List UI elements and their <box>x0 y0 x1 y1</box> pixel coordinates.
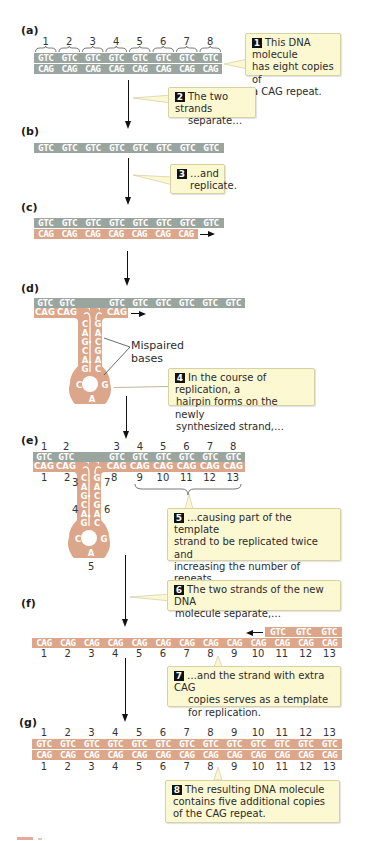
gtc-repeat: GTC <box>128 143 152 153</box>
cag-repeat: CAG <box>270 638 294 648</box>
repeat-braces <box>34 46 222 53</box>
cag-repeat: CAG <box>32 638 56 648</box>
gtc-repeat: GTC <box>270 739 294 749</box>
figure-number-fragment <box>38 838 42 840</box>
cag-repeat: CAG <box>152 462 175 471</box>
callout-step-5: 5…causing part of the template strand to… <box>167 508 341 561</box>
repeat-number: 3 <box>80 761 104 772</box>
repeat-number: 11 <box>270 648 294 659</box>
gtc-repeat: GTC <box>294 739 318 749</box>
panel-e-top-numbers: 3 4 5 6 7 8 <box>105 441 245 452</box>
arrow-f-to-g <box>125 658 126 715</box>
cag-repeat: CAG <box>127 750 151 760</box>
cag-repeat: CAG <box>199 638 223 648</box>
panel-c-label: (c) <box>21 201 38 214</box>
gtc-repeat: GTC <box>127 739 151 749</box>
gtc-repeat: GTC <box>128 298 151 308</box>
cag-repeat: CAG <box>128 462 151 471</box>
cag-repeat: CAG <box>105 462 128 471</box>
cag-repeat: CAG <box>221 462 244 471</box>
gtc-repeat: GTC <box>199 739 223 749</box>
gtc-repeat: GTC <box>199 218 223 228</box>
repeat-number: 1 <box>32 648 56 659</box>
loop-base: A <box>87 395 97 404</box>
arrow-d-to-e <box>126 396 127 432</box>
loop-base: G <box>100 381 110 390</box>
panel-e-label: (e) <box>21 434 39 447</box>
hairpin-repeat-number: 3 <box>72 477 78 488</box>
gtc-repeat: GTC <box>176 143 200 153</box>
repeat-number: 13 <box>221 472 244 483</box>
arrow-head-icon <box>125 197 131 205</box>
repeat-number: 13 <box>318 648 342 659</box>
callout-text: separate… <box>175 115 242 126</box>
repeat-number: 2 <box>64 472 70 483</box>
repeat-number: 5 <box>127 648 151 659</box>
cag-repeat: CAG <box>128 229 151 239</box>
repeat-number: 9 <box>222 761 246 772</box>
arrow-right-icon <box>139 311 146 317</box>
gtc-repeat: GTC <box>199 53 223 63</box>
gtc-repeat: GTC <box>34 143 58 153</box>
repeat-number: 10 <box>151 472 174 483</box>
arrow-head-icon <box>123 431 129 439</box>
repeat-number: 2 <box>56 648 80 659</box>
repeat-number: 6 <box>151 761 175 772</box>
repeat-number: 12 <box>294 761 318 772</box>
gtc-repeat: GTC <box>105 218 129 228</box>
panel-c-template-strand: GTC GTC GTC GTC GTC GTC GTC GTC <box>34 218 224 228</box>
repeat-number: 9 <box>222 727 246 738</box>
repeat-number: 9 <box>128 472 151 483</box>
repeat-number: 6 <box>151 727 175 738</box>
repeat-number: 8 <box>221 441 244 452</box>
figure-number-fragment <box>17 837 33 840</box>
callout-text: …and the strand with extra CAG <box>174 670 324 693</box>
callout-text: copies serves as a template <box>174 694 328 705</box>
repeat-number: 12 <box>294 727 318 738</box>
panel-d-label: (d) <box>21 282 39 295</box>
callout-text: The resulting DNA molecule <box>185 784 324 795</box>
gtc-repeat: GTC <box>318 739 342 749</box>
loop-base: C <box>73 535 83 544</box>
cag-repeat: CAG <box>152 64 176 74</box>
cag-repeat: CAG <box>105 64 129 74</box>
hairpin-repeat-number: 6 <box>104 504 110 515</box>
callout-text: of the CAG repeat. <box>172 808 266 819</box>
repeat-number: 10 <box>246 761 270 772</box>
gtc-repeat: GTC <box>103 739 127 749</box>
repeat-number: 5 <box>127 727 151 738</box>
base: C <box>92 519 102 528</box>
repeat-number: 13 <box>318 727 342 738</box>
gtc-repeat: GTC <box>58 218 82 228</box>
callout-text: The two strands of the new DNA <box>174 584 324 607</box>
gtc-repeat: GTC <box>105 143 129 153</box>
panel-f-numbers: 1 2 3 4 5 6 7 8 9 10 11 12 13 <box>32 648 342 659</box>
step-badge: 2 <box>175 92 185 102</box>
repeat-number: 7 <box>175 648 199 659</box>
cag-repeat: CAG <box>34 64 58 74</box>
cag-repeat: CAG <box>80 638 104 648</box>
callout-text: …and <box>190 168 219 179</box>
callout-4-pointer <box>114 386 170 388</box>
base: G <box>80 365 90 374</box>
arrow-head-icon <box>122 714 128 722</box>
panel-g-bottom-numbers: 1 2 3 4 5 6 7 8 9 10 11 12 13 <box>32 761 342 772</box>
callout-text: …causing part of the template <box>174 512 292 535</box>
cag-repeat: CAG <box>294 638 318 648</box>
cag-repeat: CAG <box>151 638 175 648</box>
cag-repeat: CAG <box>103 638 127 648</box>
cag-repeat: CAG <box>104 229 127 239</box>
panel-f-new-strand: GTC GTC GTC <box>265 627 342 637</box>
repeat-number: 4 <box>103 727 127 738</box>
gtc-repeat: GTC <box>246 739 270 749</box>
gtc-repeat: GTC <box>34 218 58 228</box>
repeat-number: 3 <box>80 648 104 659</box>
gtc-repeat: GTC <box>81 218 105 228</box>
repeat-number: 3 <box>105 441 128 452</box>
panel-d-new-strand-right: CAG <box>106 308 128 317</box>
gtc-repeat: GTC <box>152 298 175 308</box>
panel-a-complement-strand: CAG CAG CAG CAG CAG CAG CAG CAG <box>34 64 222 74</box>
arrow-b-to-c <box>128 158 129 198</box>
gtc-repeat: GTC <box>152 53 176 63</box>
callout-step-3: 3…and replicate. <box>170 164 225 194</box>
